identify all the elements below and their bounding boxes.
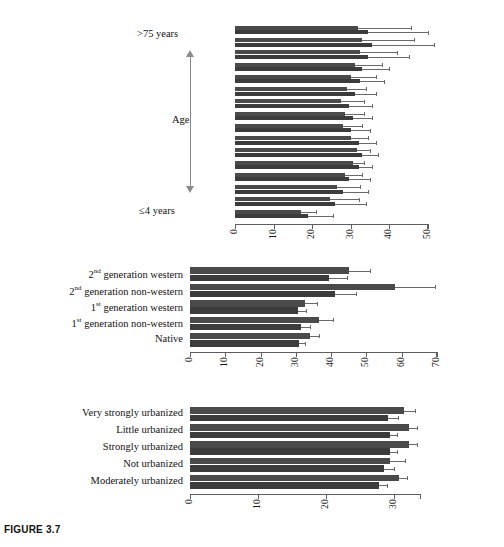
bar: [235, 141, 359, 145]
error-bar: [335, 294, 356, 295]
error-bar-cap: [319, 334, 320, 338]
error-bar: [349, 271, 370, 272]
error-bar: [359, 143, 376, 144]
error-bar: [355, 65, 382, 66]
error-bar: [347, 89, 366, 90]
bar: [235, 124, 343, 128]
error-bar-cap: [333, 214, 334, 218]
bar: [235, 177, 349, 181]
axis-tick-label: 0: [185, 357, 195, 362]
error-bar: [335, 204, 366, 205]
error-bar: [355, 94, 376, 95]
error-bar-cap: [305, 342, 306, 346]
error-bar: [353, 163, 365, 164]
category-label: 2nd generation western: [89, 268, 183, 280]
category-label: Strongly urbanized: [103, 442, 183, 453]
axis-tick-label: 20: [307, 229, 317, 239]
bar: [235, 128, 351, 132]
bar: [190, 415, 388, 422]
bar: [235, 75, 351, 79]
error-bar-cap: [384, 80, 385, 84]
error-bar: [390, 452, 397, 453]
category-label: 1st generation non-western: [72, 317, 183, 329]
error-bar-cap: [333, 318, 334, 322]
figure-3-7: >75 years Age ≤4 years FIGURE 3.7 010203…: [0, 0, 504, 547]
error-bar-cap: [317, 302, 318, 306]
error-bar: [362, 155, 377, 156]
error-bar: [372, 45, 434, 46]
axis-tick-label: 0: [185, 499, 195, 504]
bar: [235, 190, 343, 194]
category-label: Very strongly urbanized: [82, 408, 183, 419]
age-arrow-line: [190, 56, 191, 187]
category-label: 1st generation western: [91, 301, 183, 313]
bar: [235, 55, 368, 59]
bar: [190, 333, 310, 339]
error-bar: [368, 57, 409, 58]
error-bar: [345, 175, 362, 176]
bar: [235, 148, 357, 152]
age-bottom-label: ≤4 years: [139, 205, 175, 216]
error-bar-cap: [398, 416, 399, 420]
error-bar: [390, 461, 404, 462]
error-bar-cap: [366, 87, 367, 91]
bar: [235, 165, 359, 169]
error-bar-cap: [407, 476, 408, 480]
axis-tick-label: 0: [230, 229, 240, 234]
error-bar: [357, 150, 371, 151]
error-bar: [353, 118, 372, 119]
error-bar: [308, 216, 333, 217]
error-bar-cap: [372, 104, 373, 108]
error-bar-cap: [364, 161, 365, 165]
error-bar: [351, 77, 376, 78]
error-bar: [358, 28, 411, 29]
bar: [235, 197, 330, 201]
bar: [235, 161, 353, 165]
error-bar: [319, 320, 333, 321]
error-bar-cap: [376, 92, 377, 96]
age-axis-title: Age: [172, 114, 190, 125]
error-bar-cap: [414, 38, 415, 42]
bar: [235, 136, 351, 140]
axis-tick-label: 40: [326, 357, 336, 367]
bar: [190, 432, 390, 439]
bar: [190, 284, 395, 290]
bar: [190, 291, 335, 297]
bar: [190, 307, 298, 313]
error-bar: [349, 106, 372, 107]
error-bar: [301, 327, 310, 328]
axis-tick-label: 40: [384, 229, 394, 239]
category-label: Native: [155, 334, 183, 345]
bar: [235, 43, 372, 47]
bar: [235, 99, 341, 103]
error-bar-cap: [370, 129, 371, 133]
error-bar-cap: [306, 309, 307, 313]
error-bar: [388, 418, 398, 419]
error-bar-cap: [372, 165, 373, 169]
bar: [190, 424, 409, 431]
axis-tick-label: 50: [423, 229, 433, 239]
error-bar: [362, 69, 389, 70]
error-bar: [395, 287, 436, 288]
error-bar-cap: [364, 112, 365, 116]
error-bar-cap: [428, 31, 429, 35]
bar: [235, 87, 347, 91]
error-bar: [351, 130, 370, 131]
error-bar-cap: [364, 100, 365, 104]
bar: [235, 185, 337, 189]
error-bar-cap: [370, 269, 371, 273]
error-bar-cap: [387, 484, 388, 488]
bar: [235, 112, 345, 116]
error-bar-cap: [368, 190, 369, 194]
error-bar-cap: [362, 124, 363, 128]
bar: [235, 30, 368, 34]
error-bar-cap: [378, 153, 379, 157]
error-bar-cap: [362, 173, 363, 177]
bar: [235, 79, 360, 83]
bar: [190, 448, 390, 455]
error-bar-cap: [394, 467, 395, 471]
error-bar: [404, 411, 415, 412]
bar: [235, 116, 353, 120]
bar: [190, 340, 299, 346]
bar: [235, 63, 355, 67]
